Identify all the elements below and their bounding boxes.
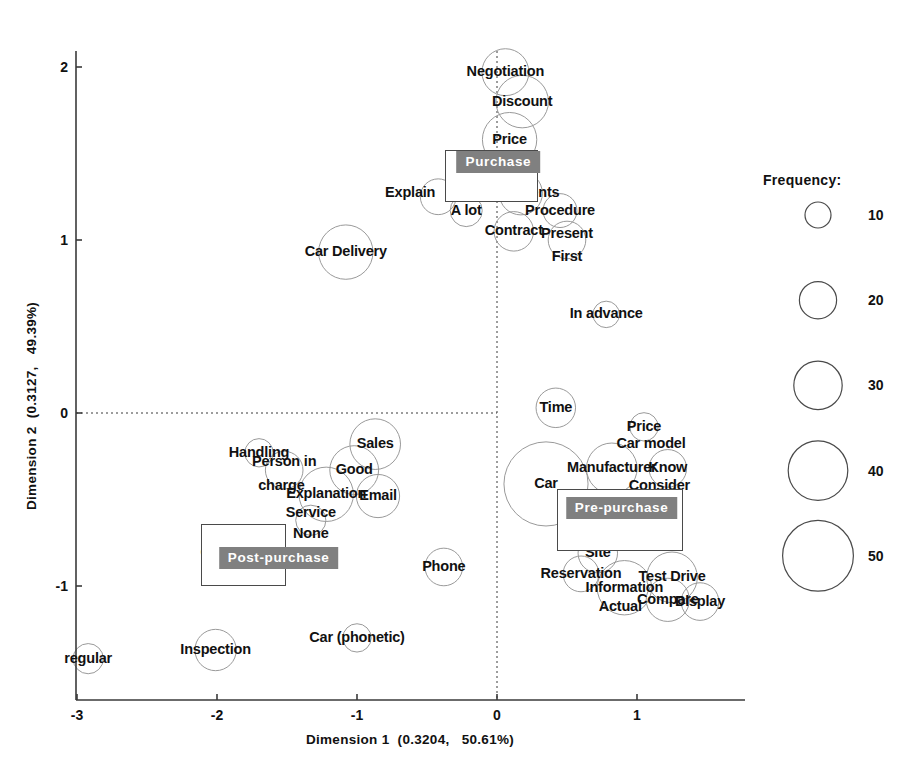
- legend-value: 40: [868, 463, 884, 479]
- bubble: [563, 556, 599, 592]
- y-tick-label: 2: [60, 59, 68, 75]
- bubble: [496, 75, 549, 128]
- y-tick-label: 0: [60, 405, 68, 421]
- bubble: [319, 225, 373, 279]
- legend-circle: [805, 202, 831, 228]
- legend-circle: [783, 520, 854, 591]
- group-tag-post-purchase[interactable]: Post-purchase: [219, 547, 339, 569]
- bubble: [536, 388, 575, 427]
- legend-title: Frequency:: [763, 172, 841, 188]
- bubble: [343, 624, 371, 652]
- bubble: [482, 49, 529, 96]
- bubble: [330, 446, 379, 495]
- bubble: [647, 552, 698, 603]
- y-axis-title: Dimension 2 (0.3127, 49.39%): [24, 302, 39, 510]
- legend-value: 20: [868, 292, 884, 308]
- group-tag-pre-purchase[interactable]: Pre-purchase: [566, 497, 678, 519]
- x-tick-label: 0: [493, 707, 501, 723]
- bubble: [681, 583, 719, 621]
- axis-lines: [76, 51, 745, 700]
- bubble: [649, 450, 687, 488]
- bubble: [265, 451, 303, 489]
- bubble: [356, 474, 399, 517]
- bubble: [494, 212, 533, 251]
- correspondence-analysis-chart: NegotiationDiscountPriceDocumentsExplain…: [0, 0, 915, 770]
- bubble: [586, 443, 637, 494]
- x-tick-label: 1: [633, 707, 641, 723]
- bubble: [425, 548, 463, 586]
- bubble: [630, 413, 658, 441]
- x-tick-label: -1: [351, 707, 363, 723]
- legend-value: 50: [868, 548, 884, 564]
- bubble: [245, 439, 273, 467]
- x-tick-label: -3: [71, 707, 83, 723]
- legend-circle-layer: [783, 202, 854, 591]
- group-tag-purchase[interactable]: Purchase: [457, 151, 541, 173]
- bubble: [597, 561, 651, 615]
- bubble: [296, 505, 326, 535]
- bubble: [548, 221, 586, 259]
- bubble: [73, 644, 103, 674]
- legend-value: 30: [868, 377, 884, 393]
- y-tick-label: 1: [60, 232, 68, 248]
- bubble: [593, 301, 619, 327]
- y-tick-label: -1: [56, 578, 68, 594]
- zero-reference-lines: [76, 51, 497, 700]
- legend-circle: [794, 361, 842, 409]
- legend-value: 10: [868, 207, 884, 223]
- bubble: [299, 467, 353, 521]
- x-tick-label: -2: [211, 707, 223, 723]
- bubble: [350, 419, 401, 470]
- bubble: [195, 629, 236, 670]
- bubble-layer: [73, 49, 719, 674]
- legend-circle: [788, 441, 848, 501]
- plot-canvas: [0, 0, 915, 770]
- x-axis-title: Dimension 1 (0.3204, 50.61%): [306, 732, 514, 747]
- legend-circle: [799, 282, 836, 319]
